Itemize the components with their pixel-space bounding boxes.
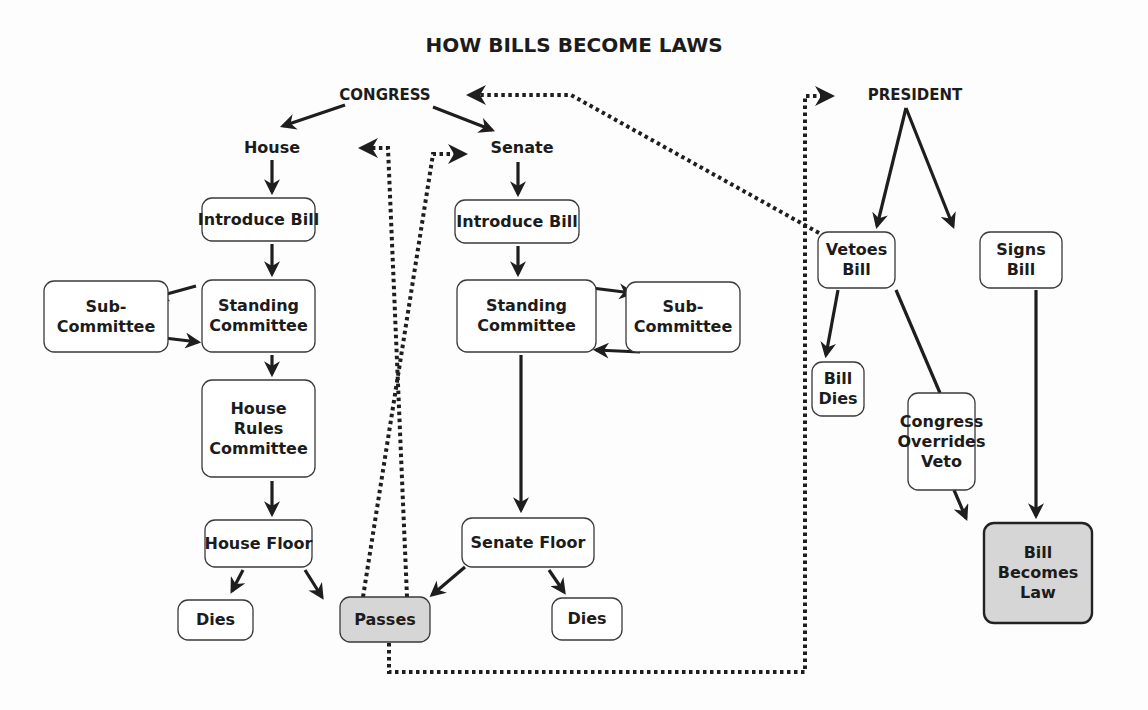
- node-override-line: Congress: [900, 412, 983, 431]
- arrow-congress-to-house: [283, 105, 345, 126]
- node-house-introduce: Introduce Bill: [198, 198, 319, 241]
- dotted-arrow-passes-to-house: [362, 148, 407, 597]
- dotted-edges: [362, 95, 831, 672]
- label-house-text: House: [244, 138, 300, 157]
- node-becomes-law-line: Law: [1020, 583, 1056, 602]
- node-house-rules: HouseRulesCommittee: [202, 380, 315, 477]
- diagram-title: HOW BILLS BECOME LAWS: [425, 33, 722, 57]
- label-congress-text: CONGRESS: [339, 86, 430, 104]
- arrow-president-to-signs: [906, 108, 953, 226]
- arrow-house-floor-to-house-dies: [232, 570, 243, 591]
- node-house-floor-line: House Floor: [204, 534, 312, 553]
- arrow-house-floor-to-passes: [305, 570, 322, 597]
- label-president-text: PRESIDENT: [868, 86, 963, 104]
- node-house-standing: StandingCommittee: [202, 280, 315, 352]
- node-senate-floor: Senate Floor: [462, 518, 594, 567]
- dotted-arrow-passes-to-president: [389, 96, 831, 672]
- node-passes: Passes: [340, 597, 430, 642]
- node-house-dies: Dies: [178, 600, 253, 640]
- node-passes-line: Passes: [354, 610, 416, 629]
- arrow-vetoes-to-bill-dies: [826, 290, 838, 355]
- nodes: Introduce BillStandingCommitteeSub-Commi…: [44, 198, 1092, 642]
- node-senate-dies: Dies: [552, 598, 622, 640]
- arrow-congress-to-senate: [433, 107, 492, 130]
- node-bill-dies-line: Dies: [818, 389, 857, 408]
- arrow-senate-floor-to-senate-dies: [549, 570, 564, 592]
- node-senate-dies-line: Dies: [567, 609, 606, 628]
- bill-to-law-flowchart: HOW BILLS BECOME LAWS CONGRESSHouseSenat…: [0, 0, 1148, 710]
- node-senate-sub: Sub-Committee: [626, 282, 740, 352]
- node-house-sub-line: Sub-: [85, 297, 126, 316]
- node-house-dies-line: Dies: [196, 610, 235, 629]
- node-override-line: Veto: [921, 452, 962, 471]
- node-senate-standing: StandingCommittee: [457, 280, 596, 352]
- label-senate-text: Senate: [490, 138, 553, 157]
- node-house-sub-line: Committee: [57, 317, 156, 336]
- node-bill-dies: BillDies: [812, 362, 864, 416]
- node-senate-standing-line: Committee: [477, 316, 576, 335]
- label-president: PRESIDENT: [868, 86, 963, 104]
- node-signs: SignsBill: [980, 232, 1062, 288]
- label-senate: Senate: [490, 138, 553, 157]
- node-vetoes: VetoesBill: [818, 232, 895, 288]
- arrow-override-to-becomes-law: [954, 490, 966, 518]
- node-senate-introduce-line: Introduce Bill: [456, 212, 577, 231]
- arrow-vetoes-to-override: [896, 290, 940, 393]
- node-house-standing-line: Standing: [218, 296, 299, 315]
- node-vetoes-line: Vetoes: [826, 240, 887, 259]
- node-bill-dies-line: Bill: [824, 369, 853, 388]
- arrow-president-to-vetoes: [877, 108, 906, 226]
- label-house: House: [244, 138, 300, 157]
- node-becomes-law-line: Bill: [1024, 543, 1053, 562]
- label-congress: CONGRESS: [339, 86, 430, 104]
- node-vetoes-line: Bill: [842, 260, 871, 279]
- node-override: CongressOverridesVeto: [898, 393, 986, 490]
- arrow-senate-floor-to-passes: [432, 567, 465, 595]
- node-senate-sub-line: Sub-: [662, 297, 703, 316]
- node-senate-introduce: Introduce Bill: [455, 200, 579, 243]
- node-house-rules-line: Rules: [234, 419, 284, 438]
- dotted-arrow-passes-to-senate: [363, 154, 464, 597]
- node-override-line: Overrides: [898, 432, 986, 451]
- node-house-standing-line: Committee: [209, 316, 308, 335]
- node-house-floor: House Floor: [204, 520, 312, 567]
- node-house-rules-line: House: [230, 399, 286, 418]
- node-house-introduce-line: Introduce Bill: [198, 210, 319, 229]
- node-senate-floor-line: Senate Floor: [471, 533, 586, 552]
- node-becomes-law-line: Becomes: [998, 563, 1079, 582]
- labels: CONGRESSHouseSenatePRESIDENT: [244, 86, 963, 157]
- node-house-rules-line: Committee: [209, 439, 308, 458]
- node-signs-line: Signs: [996, 240, 1045, 259]
- node-signs-line: Bill: [1007, 260, 1036, 279]
- node-becomes-law: BillBecomesLaw: [984, 523, 1092, 623]
- node-senate-standing-line: Standing: [486, 296, 567, 315]
- node-house-sub: Sub-Committee: [44, 281, 168, 352]
- node-senate-sub-line: Committee: [634, 317, 733, 336]
